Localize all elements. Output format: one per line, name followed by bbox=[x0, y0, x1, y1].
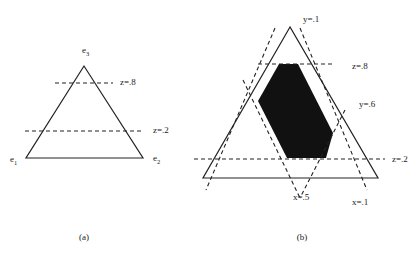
panel-a: e3 e1 e2 z=.8 z=.2 (a) bbox=[10, 45, 169, 242]
line-label-z-0.8-b: z=.8 bbox=[352, 61, 368, 71]
caption-b: (b) bbox=[297, 232, 308, 242]
line-label-y-0.6: y=.6 bbox=[359, 99, 376, 109]
line-label-z-0.2-a: z=.2 bbox=[153, 125, 169, 135]
feasible-region bbox=[258, 64, 333, 158]
caption-a: (a) bbox=[79, 232, 89, 242]
line-label-x-0.5: x=.5 bbox=[293, 192, 310, 202]
line-label-y-0.1: y=.1 bbox=[303, 14, 319, 24]
vertex-label-e3: e3 bbox=[82, 45, 89, 57]
vertex-label-e2: e2 bbox=[153, 153, 160, 165]
line-label-z-0.2-b: z=.2 bbox=[392, 154, 408, 164]
vertex-label-e1: e1 bbox=[10, 154, 17, 166]
panel-b: y=.1 z=.8 y=.6 z=.2 x=.5 x=.1 (b) bbox=[194, 14, 408, 242]
line-label-z-0.8-a: z=.8 bbox=[120, 77, 136, 87]
line-label-x-0.1: x=.1 bbox=[352, 197, 368, 207]
figure-canvas: e3 e1 e2 z=.8 z=.2 (a) y=.1 z=.8 y=.6 z=… bbox=[0, 0, 420, 255]
